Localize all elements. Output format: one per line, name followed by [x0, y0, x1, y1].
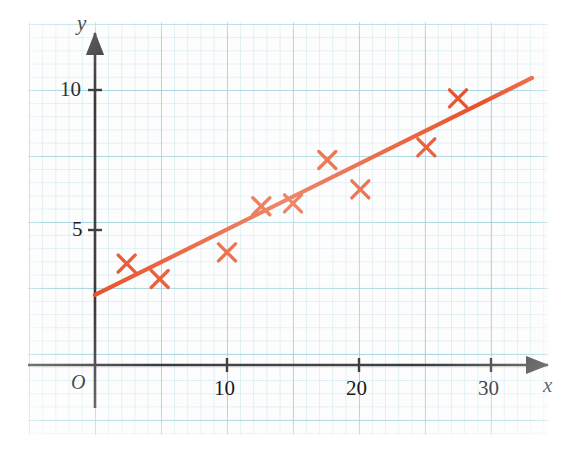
x-tick-label-20: 20: [346, 376, 367, 401]
y-axis-label: y: [77, 11, 86, 36]
y-tick-label-10: 10: [60, 77, 81, 102]
data-point-marker: [151, 271, 168, 288]
data-point-marker: [418, 139, 435, 156]
data-point-marker: [219, 244, 236, 261]
data-point-marker: [352, 181, 369, 198]
data-point-marker: [118, 255, 135, 272]
data-point-marker: [319, 152, 336, 169]
y-tick-label-5: 5: [72, 217, 83, 242]
line-of-best-fit: [95, 78, 532, 295]
trend-line: [95, 78, 532, 295]
scatter-plot-figure: 10 5 10 20 30 O y x: [0, 0, 577, 453]
x-axis-label: x: [543, 373, 552, 398]
x-tick-label-30: 30: [478, 376, 499, 401]
origin-label: O: [71, 371, 85, 394]
data-point-marker: [450, 90, 467, 107]
x-tick-label-10: 10: [214, 376, 235, 401]
